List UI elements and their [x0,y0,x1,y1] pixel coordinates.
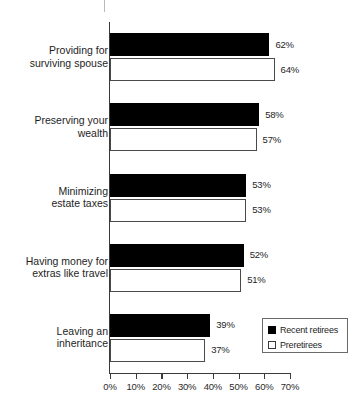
bar [110,174,246,197]
legend-label: Recent retirees [280,325,338,335]
category-label: Preserving your wealth [0,114,108,139]
top-edge-artifact [104,0,105,12]
bar-value-label: 39% [216,319,234,330]
bar [110,58,275,81]
x-axis-tick [239,373,240,379]
chart-legend: Recent retirees Preretirees [262,318,348,353]
x-axis-tick [161,373,162,379]
legend-item-recent-retirees: Recent retirees [268,323,347,336]
bar-value-label: 64% [281,64,299,75]
x-axis-tick [187,373,188,379]
category-label: Leaving an inheritance [0,325,108,350]
x-axis-tick [213,373,214,379]
bar-value-label: 53% [252,204,270,215]
bar-value-label: 62% [275,39,293,50]
bar-value-label: 51% [247,274,265,285]
x-axis-tick-label: 50% [229,381,247,392]
x-axis-tick [110,373,111,379]
legend-label: Preretirees [280,340,322,350]
x-axis-tick-label: 30% [178,381,196,392]
bar [110,244,244,267]
category-label: Providing for surviving spouse [0,44,108,69]
x-axis-tick-label: 40% [204,381,222,392]
bar-value-label: 37% [211,344,229,355]
bar-chart: 0%10%20%30%40%50%60%70% Providing for su… [0,0,356,411]
x-axis-tick-label: 10% [126,381,144,392]
x-axis-tick [264,373,265,379]
bar [110,103,259,126]
category-label: Minimizing estate taxes [0,185,108,210]
bar-value-label: 53% [252,179,270,190]
bar-value-label: 52% [250,249,268,260]
bar-value-label: 57% [263,134,281,145]
x-axis-tick [136,373,137,379]
bar [110,269,241,292]
outlined-square-icon [268,341,276,349]
x-axis-tick-label: 20% [152,381,170,392]
bar [110,314,210,337]
bar [110,199,246,222]
legend-item-preretirees: Preretirees [268,338,347,351]
x-axis-tick [290,373,291,379]
x-axis-tick-label: 0% [103,381,116,392]
x-axis-tick-label: 60% [255,381,273,392]
bar [110,128,257,151]
bar-value-label: 58% [265,109,283,120]
x-axis-tick-label: 70% [281,381,299,392]
category-label: Having money for extras like travel [0,255,108,280]
bar [110,33,269,56]
bar [110,339,205,362]
filled-square-icon [268,326,276,334]
